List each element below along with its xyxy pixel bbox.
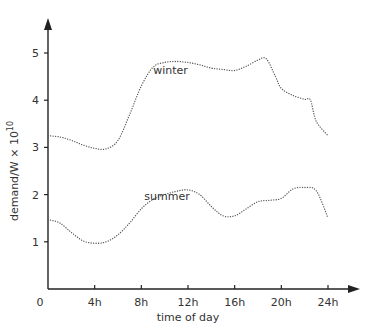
x-tick-label: 24h [318,296,339,309]
x-axis-title: time of day [157,311,220,324]
labels: 1234504h8h12h16h20h24htime of daydemand/… [6,47,339,324]
x-tick-label: 8h [134,296,148,309]
x-axis-arrow-icon [348,285,360,293]
axes [44,18,360,293]
y-tick-label: 4 [32,94,39,107]
x-tick-label: 12h [178,296,199,309]
x-tick-label: 20h [271,296,292,309]
demand-chart: 1234504h8h12h16h20h24htime of daydemand/… [0,0,365,333]
winter-demand-line [48,58,328,150]
y-tick-label: 3 [32,141,39,154]
winter-label: winter [153,64,188,77]
x-tick-label: 4h [88,296,102,309]
summer-label: summer [144,190,190,203]
x-tick-label: 16h [224,296,245,309]
y-axis-title: demand/W × 1010 [6,121,21,221]
series-lines [48,58,328,244]
y-tick-label: 5 [32,47,39,60]
y-tick-label: 2 [32,189,39,202]
x-tick-label: 0 [37,296,44,309]
y-axis-arrow-icon [44,18,52,30]
y-tick-label: 1 [32,236,39,249]
